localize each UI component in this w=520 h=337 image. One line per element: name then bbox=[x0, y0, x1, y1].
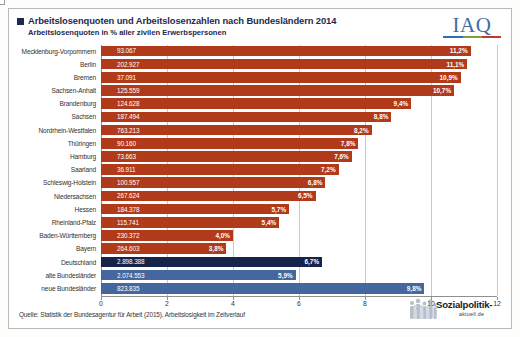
bar-count-label: 230.372 bbox=[101, 232, 139, 239]
bar-state: 90.1607,8% bbox=[101, 138, 358, 149]
bar-region: 2.074.5535,9% bbox=[101, 270, 296, 281]
bar-row: Hamburg73.6637,6% bbox=[9, 151, 513, 163]
page-subtitle: Arbeitslosenquoten in % aller zivilen Er… bbox=[28, 28, 503, 37]
bar-state: 187.4948,8% bbox=[101, 112, 391, 123]
x-axis-tick-label: 2 bbox=[165, 300, 169, 307]
bar-row: Sachsen-Anhalt125.55910,7% bbox=[9, 85, 513, 97]
bar-row: Berlin202.92711,1% bbox=[9, 58, 513, 70]
bar-count-label: 184.378 bbox=[101, 206, 139, 213]
bar-state: 184.3785,7% bbox=[101, 204, 289, 215]
bar-state: 93.06711,2% bbox=[101, 46, 471, 57]
bar-row-label: Thüringen bbox=[9, 140, 101, 147]
bar-count-label: 2.898.388 bbox=[101, 258, 145, 265]
x-axis-tick-label: 0 bbox=[99, 300, 103, 307]
bar-track: 93.06711,2% bbox=[101, 45, 513, 57]
bar-count-label: 73.663 bbox=[101, 153, 136, 160]
chart-page: Arbeitslosenquoten und Arbeitslosenzahle… bbox=[0, 0, 520, 337]
bar-row-label: Brandenburg bbox=[9, 100, 101, 107]
bar-percent-label: 5,9% bbox=[278, 272, 296, 279]
bar-track: 37.09110,9% bbox=[101, 71, 513, 83]
bar-row-label: Berlin bbox=[9, 61, 101, 68]
bar-count-label: 90.160 bbox=[101, 140, 136, 147]
bar-row-label: Saarland bbox=[9, 166, 101, 173]
bar-track: 202.92711,1% bbox=[101, 58, 513, 70]
bar-count-label: 124.628 bbox=[101, 100, 139, 107]
bar-count-label: 36.911 bbox=[101, 166, 135, 173]
bar-rows: Mecklenburg-Vorpommern93.06711,2%Berlin2… bbox=[9, 45, 513, 296]
bar-track: 823.8359,8% bbox=[101, 282, 513, 294]
bar-row: neue Bundesländer823.8359,8% bbox=[9, 282, 513, 294]
bar-percent-label: 9,4% bbox=[394, 100, 412, 107]
bar-percent-label: 10,7% bbox=[433, 87, 454, 94]
bar-row: alte Bundesländer2.074.5535,9% bbox=[9, 269, 513, 281]
bar-track: 36.9117,2% bbox=[101, 164, 513, 176]
bar-track: 125.55910,7% bbox=[101, 85, 513, 97]
bar-row: Sachsen187.4948,8% bbox=[9, 111, 513, 123]
bar-percent-label: 9,8% bbox=[407, 285, 425, 292]
bar-state: 267.6246,5% bbox=[101, 191, 316, 202]
bar-track: 763.2138,2% bbox=[101, 124, 513, 136]
bar-state: 763.2138,2% bbox=[101, 125, 372, 136]
bar-count-label: 2.074.553 bbox=[101, 272, 145, 279]
x-axis-tick-label: 6 bbox=[297, 300, 301, 307]
bar-germany: 2.898.3886,7% bbox=[101, 257, 322, 268]
bar-count-label: 202.927 bbox=[101, 61, 139, 68]
bar-state: 37.09110,9% bbox=[101, 72, 461, 83]
bar-row: Saarland36.9117,2% bbox=[9, 164, 513, 176]
bar-percent-label: 6,8% bbox=[308, 179, 326, 186]
bar-state: 202.92711,1% bbox=[101, 59, 467, 70]
bar-row-label: Hessen bbox=[9, 206, 101, 213]
bar-count-label: 823.835 bbox=[101, 285, 139, 292]
people-group-icon bbox=[407, 296, 437, 322]
crop-mark-top-left-h bbox=[0, 4, 5, 5]
bar-track: 267.6246,5% bbox=[101, 190, 513, 202]
bar-state: 264.6033,8% bbox=[101, 243, 226, 254]
bar-row-label: Deutschland bbox=[9, 259, 101, 266]
bar-percent-label: 8,2% bbox=[354, 127, 372, 134]
bar-row-label: Bremen bbox=[9, 74, 101, 81]
bar-row-label: Rheinland-Pfalz bbox=[9, 219, 101, 226]
bar-row-label: Baden-Württemberg bbox=[9, 232, 101, 239]
sozialpolitik-brand-tld: aktuell.de bbox=[459, 311, 484, 317]
bar-percent-label: 10,9% bbox=[440, 74, 461, 81]
bar-percent-label: 11,2% bbox=[450, 47, 471, 54]
bar-chart: Mecklenburg-Vorpommern93.06711,2%Berlin2… bbox=[9, 45, 513, 300]
bar-track: 115.7415,4% bbox=[101, 216, 513, 228]
bar-row-label: alte Bundesländer bbox=[9, 272, 101, 279]
bullet-square-icon bbox=[17, 18, 24, 25]
bar-percent-label: 8,8% bbox=[374, 113, 392, 120]
bar-state: 115.7415,4% bbox=[101, 217, 279, 228]
bar-track: 2.898.3886,7% bbox=[101, 256, 513, 268]
bar-count-label: 37.091 bbox=[101, 74, 136, 81]
iaq-logo: IAQ bbox=[441, 14, 503, 44]
bar-row-label: Sachsen-Anhalt bbox=[9, 87, 101, 94]
bar-state: 124.6289,4% bbox=[101, 98, 411, 109]
bar-track: 90.1607,8% bbox=[101, 137, 513, 149]
page-title: Arbeitslosenquoten und Arbeitslosenzahle… bbox=[28, 15, 336, 26]
bar-row: Baden-Württemberg230.3724,0% bbox=[9, 230, 513, 242]
bar-state: 100.9576,8% bbox=[101, 177, 325, 188]
title-row: Arbeitslosenquoten und Arbeitslosenzahle… bbox=[17, 15, 503, 26]
bar-row-label: Sachsen bbox=[9, 113, 101, 120]
bar-row: Deutschland2.898.3886,7% bbox=[9, 256, 513, 268]
bar-state: 36.9117,2% bbox=[101, 164, 339, 175]
iaq-logo-text: IAQ bbox=[441, 14, 503, 36]
bar-count-label: 125.559 bbox=[101, 87, 139, 94]
bar-row: Niedersachsen267.6246,5% bbox=[9, 190, 513, 202]
bar-count-label: 115.741 bbox=[101, 219, 139, 226]
bar-row: Bayern264.6033,8% bbox=[9, 243, 513, 255]
bar-track: 124.6289,4% bbox=[101, 98, 513, 110]
bar-state: 125.55910,7% bbox=[101, 85, 454, 96]
bar-count-label: 267.624 bbox=[101, 192, 139, 199]
bar-row: Nordrhein-Westfalen763.2138,2% bbox=[9, 124, 513, 136]
bar-track: 73.6637,6% bbox=[101, 151, 513, 163]
bar-track: 187.4948,8% bbox=[101, 111, 513, 123]
bar-row-label: Bayern bbox=[9, 245, 101, 252]
bar-percent-label: 7,2% bbox=[321, 166, 339, 173]
bar-count-label: 100.957 bbox=[101, 179, 139, 186]
bar-row: Mecklenburg-Vorpommern93.06711,2% bbox=[9, 45, 513, 57]
bar-percent-label: 5,7% bbox=[272, 206, 290, 213]
x-axis-tick-label: 4 bbox=[231, 300, 235, 307]
bar-percent-label: 6,7% bbox=[305, 258, 323, 265]
sozialpolitik-brand-name: Sozialpolitik- bbox=[436, 300, 492, 310]
